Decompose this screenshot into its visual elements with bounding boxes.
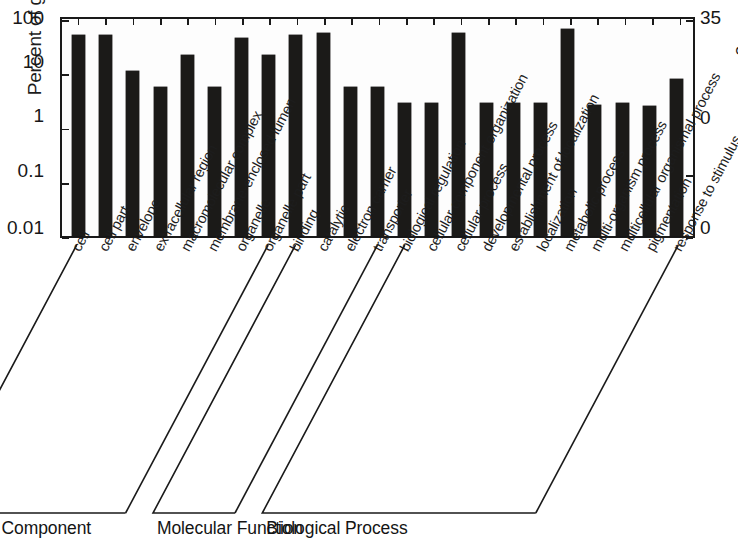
group-title-biological-process: Biological Process <box>266 518 407 539</box>
group-title-cellular-component: Cellular Component <box>0 518 91 539</box>
group-annotations: Cellular ComponentMolecular FunctionBiol… <box>0 0 738 551</box>
group-bracket-lines <box>0 0 738 551</box>
chart-root: Percent of genes Number of genes 100 10 … <box>0 0 738 551</box>
